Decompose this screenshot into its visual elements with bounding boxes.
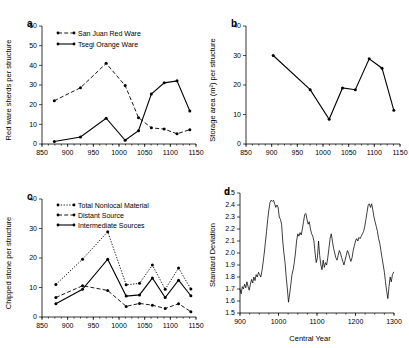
y-tick-label: 2.1 <box>225 237 235 244</box>
y-tick-label: 20 <box>233 81 241 88</box>
panel-a-legend: San Juan Red WareTsegi Orange Ware <box>57 30 141 49</box>
data-point <box>328 118 331 121</box>
data-point <box>125 305 128 308</box>
data-point <box>137 129 140 132</box>
data-point <box>354 88 357 91</box>
data-point <box>309 88 312 91</box>
panel-b-axes <box>243 26 400 147</box>
panel-d-ytick-labels: 1.51.61.71.81.92.02.12.22.32.42.5 <box>225 189 235 316</box>
x-tick-label: 1000 <box>111 149 127 156</box>
y-tick-label: 0 <box>33 140 37 147</box>
panel-d: d Standard Deviation Central Year 1.51.6… <box>204 173 409 348</box>
x-tick-label: 1000 <box>315 149 331 156</box>
data-point <box>392 109 395 112</box>
panel-c-xtick-labels: 8509009501000105011001150 <box>36 322 203 329</box>
x-tick-label: 1100 <box>309 318 324 325</box>
panel-a: a Red ware sherds per structure 01020304… <box>0 0 205 174</box>
data-point <box>177 279 180 282</box>
y-tick-label: 0 <box>33 313 37 320</box>
y-tick-label: 50 <box>29 42 37 49</box>
data-point <box>125 283 128 286</box>
y-tick-label: 40 <box>29 195 37 202</box>
data-point <box>189 310 192 313</box>
x-tick-label: 850 <box>36 322 48 329</box>
panel-d-series <box>240 200 394 302</box>
y-tick-label: 40 <box>233 22 241 29</box>
x-tick-label: 1150 <box>188 322 203 329</box>
data-point <box>106 258 109 261</box>
data-point <box>177 302 180 305</box>
legend-label: Total Nonlocal Material <box>78 202 149 209</box>
y-tick-label: 60 <box>29 22 37 29</box>
y-tick-label: 2.4 <box>225 201 235 208</box>
legend-marker <box>57 204 60 207</box>
y-tick-label: 30 <box>233 52 241 59</box>
y-tick-label: 20 <box>29 101 37 108</box>
x-tick-label: 900 <box>62 149 74 156</box>
data-point <box>163 81 166 84</box>
x-tick-label: 900 <box>266 149 278 156</box>
legend-marker <box>73 204 76 207</box>
y-tick-label: 1.9 <box>225 261 235 268</box>
series-line <box>54 81 190 142</box>
series-line <box>273 56 394 120</box>
panel-a-plot: a Red ware sherds per structure 01020304… <box>0 0 205 174</box>
x-tick-label: 1050 <box>341 149 357 156</box>
y-tick-label: 10 <box>29 284 37 291</box>
panel-c-ytick-labels: 010203040 <box>29 195 37 320</box>
y-tick-label: 1.5 <box>225 309 235 316</box>
data-point <box>176 132 179 135</box>
panel-c-ylabel: Chipped stone per structure <box>4 217 13 310</box>
axis-frame <box>240 193 394 313</box>
panel-c-plot: c Chipped stone per structure 010203040 … <box>0 173 205 348</box>
panel-c-legend: Total Nonlocal MaterialDistant SourceInt… <box>57 202 150 229</box>
legend-label: Tsegi Orange Ware <box>78 41 138 49</box>
x-tick-label: 950 <box>87 149 99 156</box>
legend-marker <box>73 214 76 217</box>
panel-b-ytick-labels: 010203040 <box>233 22 241 147</box>
x-tick-label: 1050 <box>137 149 153 156</box>
y-tick-label: 40 <box>29 62 37 69</box>
data-point <box>138 282 141 285</box>
y-tick-label: 1.8 <box>225 273 235 280</box>
x-tick-label: 1000 <box>271 318 287 325</box>
legend-marker <box>57 224 60 227</box>
legend-marker <box>57 43 60 46</box>
data-point <box>79 86 82 89</box>
data-point <box>79 135 82 138</box>
x-tick-label: 900 <box>234 318 246 325</box>
panel-d-plot: d Standard Deviation Central Year 1.51.6… <box>204 173 409 348</box>
data-point <box>125 295 128 298</box>
x-tick-label: 1000 <box>111 322 127 329</box>
y-tick-label: 0 <box>237 140 241 147</box>
data-point <box>164 288 167 291</box>
x-tick-label: 1100 <box>163 322 178 329</box>
panel-b-xtick-labels: 8509009501000105011001150 <box>240 149 407 156</box>
y-tick-label: 2.5 <box>225 189 235 196</box>
y-tick-label: 30 <box>29 225 37 232</box>
x-tick-label: 950 <box>291 149 303 156</box>
panel-b-series <box>272 54 396 121</box>
data-point <box>189 287 192 290</box>
data-point <box>53 99 56 102</box>
x-tick-label: 950 <box>87 322 99 329</box>
data-point <box>124 139 127 142</box>
data-point <box>341 86 344 89</box>
x-tick-label: 850 <box>240 149 252 156</box>
series-line <box>56 232 191 290</box>
panel-d-ylabel: Standard Deviation <box>208 223 217 287</box>
data-point <box>151 304 154 307</box>
x-tick-label: 1050 <box>137 322 153 329</box>
data-point <box>176 79 179 82</box>
series-line <box>54 63 190 133</box>
panel-c-series <box>54 230 192 313</box>
panel-c: c Chipped stone per structure 010203040 … <box>0 173 205 348</box>
data-point <box>137 116 140 119</box>
data-point <box>368 57 371 60</box>
y-tick-label: 20 <box>29 254 37 261</box>
data-point <box>106 230 109 233</box>
y-tick-label: 10 <box>29 121 37 128</box>
x-tick-label: 1300 <box>386 318 402 325</box>
legend-marker <box>57 214 60 217</box>
data-point <box>189 294 192 297</box>
